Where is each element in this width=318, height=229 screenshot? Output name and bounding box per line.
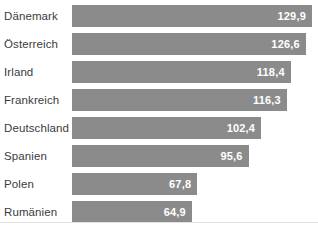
category-label-deutschland: Deutschland	[4, 117, 70, 139]
bar-deutschland: 102,4	[72, 117, 261, 139]
bar-chart-rows: Dänemark 129,9 Österreich 126,6 Irland 1…	[0, 5, 318, 229]
category-label-rumaenien: Rumänien	[4, 201, 70, 223]
bar-track: 95,6	[72, 145, 318, 167]
chart-row: Frankreich 116,3	[0, 89, 318, 111]
bar-value-deutschland: 102,4	[227, 122, 256, 134]
bar-track: 129,9	[72, 5, 318, 27]
category-label-polen: Polen	[4, 173, 70, 195]
bar-spanien: 95,6	[72, 145, 249, 167]
bar-value-irland: 118,4	[257, 66, 285, 78]
category-label-frankreich: Frankreich	[4, 89, 70, 111]
chart-row: Deutschland 102,4	[0, 117, 318, 139]
bar-track: 64,9	[72, 201, 318, 223]
category-label-irland: Irland	[4, 61, 70, 83]
chart-row: Rumänien 64,9	[0, 201, 318, 223]
chart-baseline	[0, 222, 318, 223]
bar-value-rumaenien: 64,9	[164, 206, 186, 218]
bar-value-frankreich: 116,3	[253, 94, 281, 106]
category-label-spanien: Spanien	[4, 145, 70, 167]
chart-row: Polen 67,8	[0, 173, 318, 195]
bar-track: 116,3	[72, 89, 318, 111]
bar-frankreich: 116,3	[72, 89, 287, 111]
bar-track: 67,8	[72, 173, 318, 195]
bar-track: 118,4	[72, 61, 318, 83]
bar-value-spanien: 95,6	[220, 150, 242, 162]
chart-row: Österreich 126,6	[0, 33, 318, 55]
category-label-daenemark: Dänemark	[4, 5, 70, 27]
bar-oesterreich: 126,6	[72, 33, 306, 55]
bar-daenemark: 129,9	[72, 5, 312, 27]
chart-row: Dänemark 129,9	[0, 5, 318, 27]
bar-irland: 118,4	[72, 61, 291, 83]
bar-polen: 67,8	[72, 173, 197, 195]
bar-value-polen: 67,8	[169, 178, 191, 190]
bar-track: 126,6	[72, 33, 318, 55]
chart-row: Spanien 95,6	[0, 145, 318, 167]
bar-rumaenien: 64,9	[72, 201, 192, 223]
bar-chart: Dänemark 129,9 Österreich 126,6 Irland 1…	[0, 0, 318, 229]
category-label-oesterreich: Österreich	[4, 33, 70, 55]
bar-track: 102,4	[72, 117, 318, 139]
bar-value-daenemark: 129,9	[277, 10, 306, 22]
bar-value-oesterreich: 126,6	[271, 38, 300, 50]
chart-row: Irland 118,4	[0, 61, 318, 83]
